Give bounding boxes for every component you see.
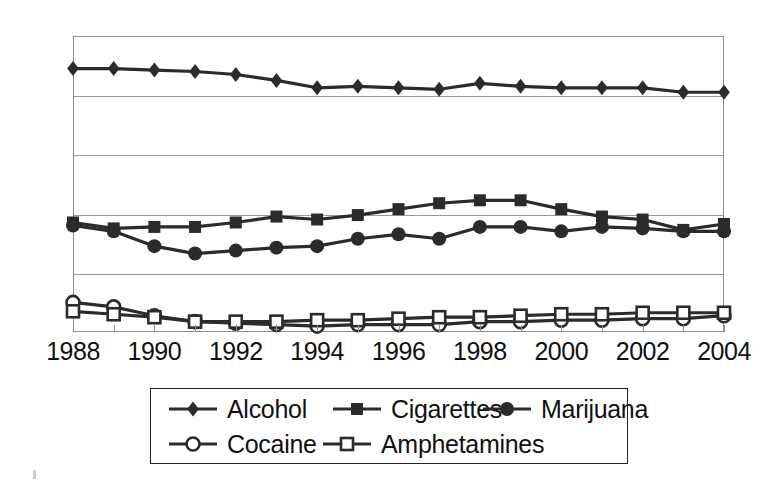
x-tick-mark-1991	[195, 325, 196, 332]
x-tick-label-1988: 1988	[46, 336, 100, 366]
gridline-40	[74, 215, 723, 216]
x-tick-mark-1992	[236, 325, 237, 332]
x-tick-label-1990: 1990	[128, 336, 182, 366]
chart-legend: AlcoholCigarettesMarijuana CocaineAmphet…	[150, 388, 628, 464]
x-tick-label-1996: 1996	[372, 336, 426, 366]
gridline-20	[74, 274, 723, 275]
x-tick-mark-2001	[602, 325, 603, 332]
legend-label-cocaine: Cocaine	[227, 432, 317, 457]
legend-label-alcohol: Alcohol	[227, 397, 307, 422]
y-axis-labels: 100806040200	[0, 0, 66, 492]
x-tick-mark-1993	[276, 325, 277, 332]
scan-speck	[33, 470, 36, 479]
x-tick-mark-1994	[317, 325, 318, 332]
x-tick-label-1998: 1998	[453, 336, 507, 366]
gridline-60	[74, 155, 723, 156]
legend-item-marijuana[interactable]: Marijuana	[481, 391, 648, 427]
legend-row-secondary: CocaineAmphetamines	[151, 426, 627, 462]
data-point-filled-circle	[500, 402, 514, 416]
data-point-filled-diamond	[187, 402, 199, 417]
data-point-open-circle	[187, 438, 200, 451]
x-tick-label-2004: 2004	[697, 336, 751, 366]
x-tick-mark-1988	[73, 325, 74, 332]
legend-item-amphetamines[interactable]: Amphetamines	[321, 426, 544, 462]
x-tick-mark-1989	[114, 325, 115, 332]
gridline-80	[74, 96, 723, 97]
legend-label-amphetamines: Amphetamines	[381, 432, 544, 457]
chart-figure: 100806040200 198819901992199419961998200…	[0, 0, 779, 492]
x-tick-mark-1996	[399, 325, 400, 332]
legend-marker-filled-diamond	[167, 396, 219, 422]
legend-marker-open-circle	[167, 431, 219, 457]
legend-item-cigarettes[interactable]: Cigarettes	[331, 391, 502, 427]
x-tick-mark-1995	[358, 325, 359, 332]
x-tick-label-2002: 2002	[616, 336, 670, 366]
x-axis-labels: 198819901992199419961998200020022004	[0, 336, 779, 370]
plot-area	[73, 36, 724, 332]
x-tick-mark-2002	[643, 325, 644, 332]
x-tick-label-1994: 1994	[290, 336, 344, 366]
legend-marker-filled-square	[331, 396, 383, 422]
x-tick-mark-1990	[154, 325, 155, 332]
x-tick-label-1992: 1992	[209, 336, 263, 366]
legend-row-primary: AlcoholCigarettesMarijuana	[151, 391, 627, 427]
x-tick-mark-2004	[724, 325, 725, 332]
legend-marker-open-square	[321, 431, 373, 457]
data-point-open-square	[341, 438, 353, 450]
legend-item-alcohol[interactable]: Alcohol	[167, 391, 307, 427]
x-tick-label-2000: 2000	[534, 336, 588, 366]
x-tick-mark-2000	[561, 325, 562, 332]
legend-label-marijuana: Marijuana	[541, 397, 648, 422]
x-tick-mark-1999	[521, 325, 522, 332]
legend-marker-filled-circle	[481, 396, 533, 422]
x-tick-mark-1997	[439, 325, 440, 332]
x-tick-mark-1998	[480, 325, 481, 332]
data-point-filled-square	[351, 403, 363, 415]
legend-item-cocaine[interactable]: Cocaine	[167, 426, 317, 462]
x-tick-mark-2003	[683, 325, 684, 332]
